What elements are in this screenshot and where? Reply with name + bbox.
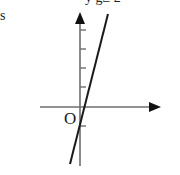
top-caption-cut: y g≥ 2 bbox=[85, 0, 121, 5]
left-caption-cut: s bbox=[0, 9, 5, 23]
y-axis-arrow-icon bbox=[75, 12, 85, 24]
function-line bbox=[70, 14, 108, 164]
origin-label: O bbox=[64, 110, 76, 127]
graph-canvas bbox=[0, 0, 180, 175]
coordinate-graph: y g≥ 2 s O bbox=[0, 0, 180, 175]
x-axis-arrow-icon bbox=[149, 102, 161, 112]
